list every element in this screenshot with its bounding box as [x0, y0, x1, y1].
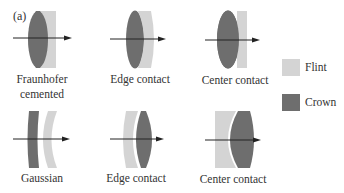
- lens-center-contact-2: [205, 111, 261, 168]
- legend-label-flint: Flint: [305, 61, 327, 73]
- caption-edge-contact-2: Edge contact: [104, 172, 168, 185]
- legend-swatch-crown: [282, 94, 300, 111]
- legend-swatch-flint: [282, 59, 300, 76]
- caption-center-contact-2: Center contact: [198, 173, 268, 186]
- lens-doublet-figure: (a) Fraunhofer cemented Edge contact Cen…: [0, 0, 344, 193]
- lens-edge-contact-2: [110, 111, 164, 168]
- lens-center-contact-1: [205, 11, 260, 69]
- caption-fraunhofer: Fraunhofer cemented: [10, 73, 74, 101]
- legend-label-crown: Crown: [305, 96, 336, 108]
- caption-edge-contact-1: Edge contact: [108, 73, 172, 86]
- caption-gaussian: Gaussian: [12, 172, 72, 185]
- lens-edge-contact-1: [110, 11, 166, 69]
- panel-label: (a): [13, 9, 26, 24]
- lens-gaussian: [13, 111, 70, 168]
- caption-line-2: cemented: [10, 88, 74, 101]
- caption-line-1: Fraunhofer: [10, 73, 74, 86]
- caption-center-contact-1: Center contact: [200, 74, 270, 87]
